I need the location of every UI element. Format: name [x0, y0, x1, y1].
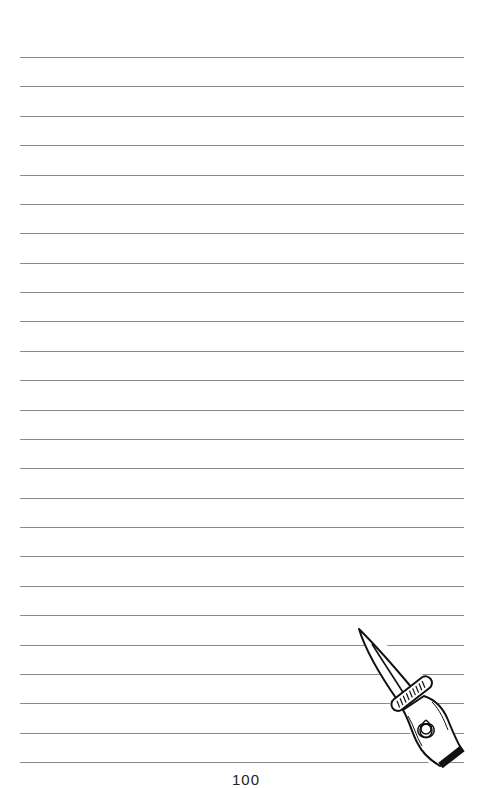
ruled-line	[20, 380, 464, 381]
ruled-line	[20, 57, 464, 58]
ruled-line	[20, 586, 464, 587]
ruled-line	[20, 410, 464, 411]
ruled-line	[20, 233, 464, 234]
ruled-line	[20, 498, 464, 499]
ruled-line	[20, 292, 464, 293]
ruled-line	[20, 175, 464, 176]
ruled-line	[20, 351, 464, 352]
ruled-line	[20, 556, 464, 557]
ruled-line	[20, 527, 464, 528]
ruled-line	[20, 86, 464, 87]
dagger-icon	[340, 610, 490, 770]
ruled-line	[20, 145, 464, 146]
ruled-line	[20, 204, 464, 205]
ruled-line	[20, 439, 464, 440]
ruled-line	[20, 468, 464, 469]
page-number: 100	[0, 772, 492, 787]
ruled-line	[20, 263, 464, 264]
ruled-line	[20, 116, 464, 117]
ruled-line	[20, 321, 464, 322]
